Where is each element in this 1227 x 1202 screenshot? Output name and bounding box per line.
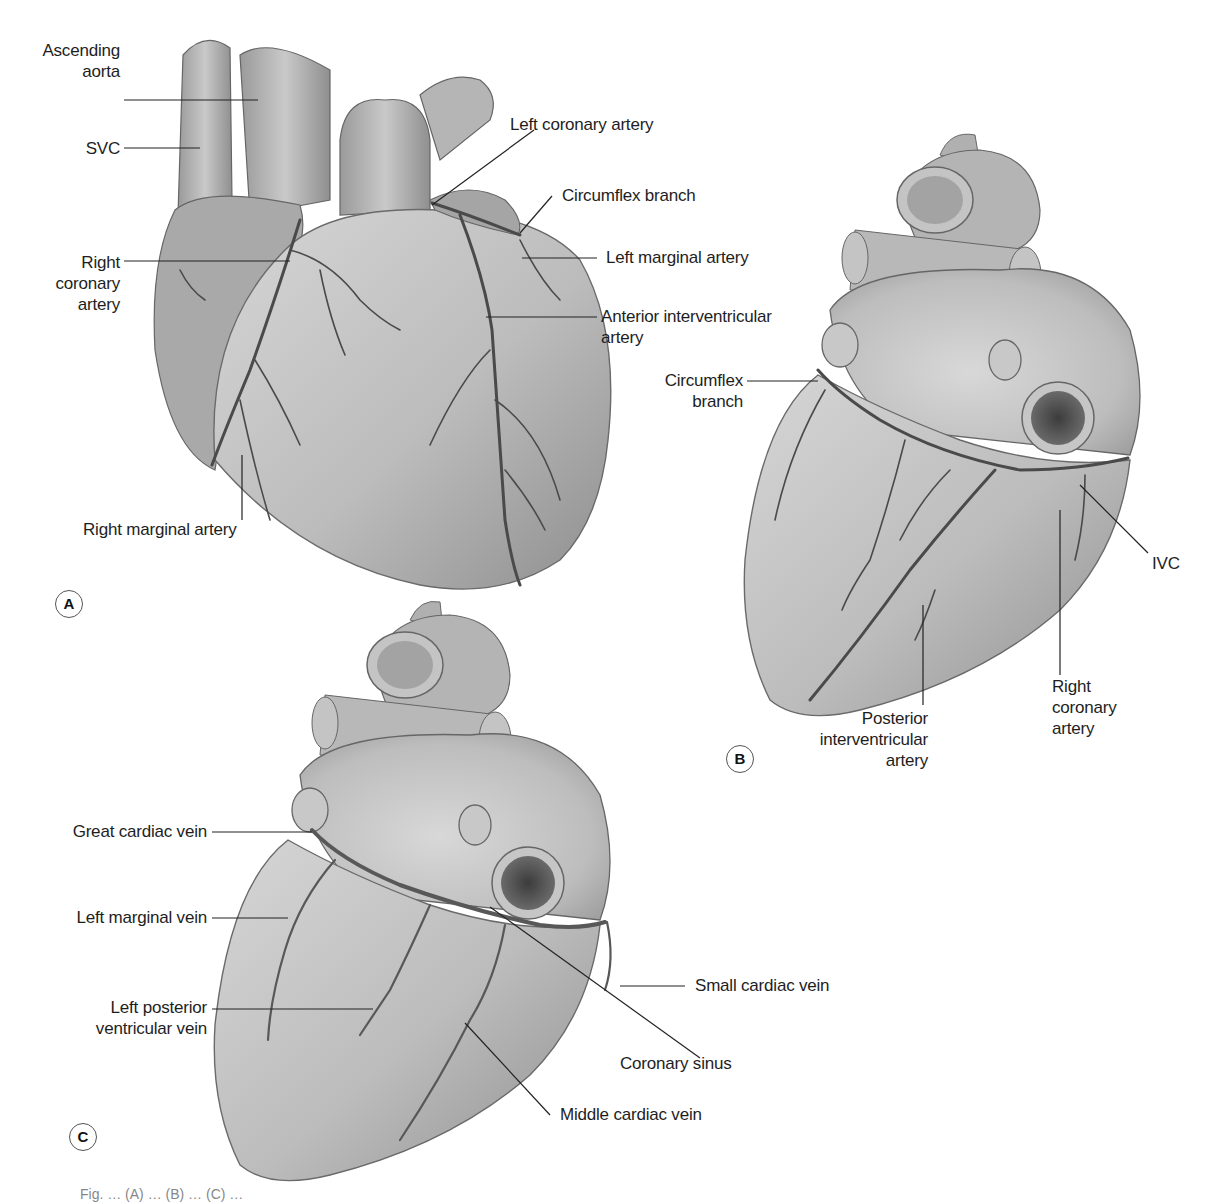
label-left-coronary-artery: Left coronary artery xyxy=(510,114,653,135)
panel-c-heart xyxy=(214,601,610,1180)
label-middle-cardiac-vein: Middle cardiac vein xyxy=(560,1104,702,1125)
label-ascending-aorta: Ascending aorta xyxy=(30,40,120,82)
label-right-coronary-artery-a: Right coronary artery xyxy=(30,252,120,315)
label-right-coronary-artery-b: Right coronary artery xyxy=(1052,676,1117,739)
label-left-marginal-artery: Left marginal artery xyxy=(606,247,748,268)
label-right-marginal-artery: Right marginal artery xyxy=(83,519,237,540)
label-great-cardiac-vein: Great cardiac vein xyxy=(20,821,207,842)
label-ivc: IVC xyxy=(1152,553,1180,574)
label-small-cardiac-vein: Small cardiac vein xyxy=(695,975,829,996)
label-coronary-sinus: Coronary sinus xyxy=(620,1053,732,1074)
panel-tag-b: B xyxy=(726,745,754,773)
label-posterior-interventricular-artery: Posterior interventricular artery xyxy=(780,708,928,771)
label-circumflex-branch-a: Circumflex branch xyxy=(562,185,696,206)
label-anterior-interventricular-artery: Anterior interventricular artery xyxy=(601,306,772,348)
panel-tag-a: A xyxy=(55,590,83,618)
figure-caption: Fig. … (A) … (B) … (C) … xyxy=(80,1186,243,1202)
panel-tag-c: C xyxy=(69,1123,97,1151)
label-left-posterior-ventricular-vein: Left posterior ventricular vein xyxy=(20,997,207,1039)
label-svc: SVC xyxy=(30,138,120,159)
label-circumflex-branch-b: Circumflex branch xyxy=(640,370,743,412)
panel-b-heart xyxy=(744,134,1140,715)
label-left-marginal-vein: Left marginal vein xyxy=(20,907,207,928)
